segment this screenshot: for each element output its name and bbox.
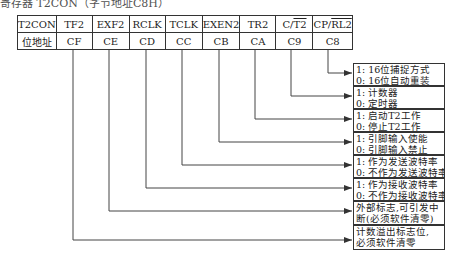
- desc-line: 必须软件清零: [356, 237, 442, 248]
- desc-line: 1: 计数器: [356, 87, 442, 98]
- desc-line: 1: 启动T2工作: [356, 110, 442, 121]
- connector-ce: [109, 50, 352, 211]
- desc-tr2: 1: 启动T2工作 0: 停止T2工作: [353, 109, 445, 132]
- desc-line: 计数溢出标志位,: [356, 226, 442, 237]
- desc-line: 0: 不作为接收波特率: [356, 190, 442, 201]
- desc-exf2: 外部标志,可引发中 断(必须软件清零): [353, 201, 445, 225]
- connector-ca: [255, 50, 352, 119]
- desc-line: 0: 定时器: [356, 98, 442, 109]
- desc-ct2: 1: 计数器 0: 定时器: [353, 86, 445, 109]
- desc-line: 断(必须软件清零): [356, 213, 442, 224]
- connector-c8: [328, 50, 352, 73]
- connector-cc: [182, 50, 352, 165]
- desc-line: 1: 作为发送波特率: [356, 156, 442, 167]
- desc-line: 0: 引脚输入禁止: [356, 144, 442, 155]
- desc-rclk: 1: 作为接收波特率 0: 不作为接收波特率: [353, 178, 445, 201]
- desc-line: 0: 停止T2工作: [356, 121, 442, 132]
- desc-exen2: 1: 引脚输入使能 0: 引脚输入禁止: [353, 132, 445, 155]
- desc-cprl2: 1: 16位捕捉方式 0: 16位自动重装: [353, 63, 445, 86]
- desc-line: 0: 16位自动重装: [356, 75, 442, 86]
- desc-line: 0: 不作为发送波特率: [356, 167, 442, 178]
- desc-line: 1: 引脚输入使能: [356, 133, 442, 144]
- desc-line: 1: 16位捕捉方式: [356, 64, 442, 75]
- desc-line: 1: 作为接收波特率: [356, 179, 442, 190]
- desc-tclk: 1: 作为发送波特率 0: 不作为发送波特率: [353, 155, 445, 178]
- desc-line: 外部标志,可引发中: [356, 202, 442, 213]
- desc-tf2: 计数溢出标志位, 必须软件清零: [353, 225, 445, 250]
